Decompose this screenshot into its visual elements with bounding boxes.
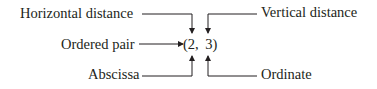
abscissa-arrow [142, 56, 192, 76]
abscissa-label: Abscissa [88, 67, 140, 82]
ordinate-arrow [208, 56, 257, 76]
vertical-distance-arrow [208, 14, 257, 33]
horizontal-distance-label: Horizontal distance [20, 6, 133, 21]
vertical-distance-label: Vertical distance [261, 5, 357, 20]
ordinate-label: Ordinate [261, 67, 312, 82]
horizontal-distance-arrow [142, 14, 192, 33]
ordered-pair-value: (2, 3) [183, 37, 217, 52]
ordered-pair-label: Ordered pair [61, 37, 135, 52]
